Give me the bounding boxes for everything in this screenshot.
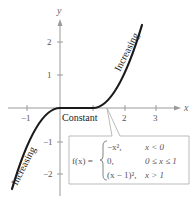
x-axis-label: x <box>183 102 189 113</box>
tick-label-y-neg1: −1 <box>43 137 53 147</box>
case2-cond: 0 ≤ x ≤ 1 <box>145 156 177 166</box>
case3-expr: (x − 1)², <box>107 170 137 180</box>
piecewise-function-graph: x y −1 2 3 2 1 −1 −2 Increasing Increasi… <box>0 0 193 201</box>
tick-label-y-neg2: −2 <box>43 169 53 179</box>
x-axis-arrow-icon <box>174 106 181 111</box>
case3-cond: x > 1 <box>144 170 164 180</box>
formula-lhs: f(x) = <box>72 156 93 166</box>
tick-label-y-1: 1 <box>47 70 52 80</box>
y-axis-label: y <box>56 5 62 16</box>
y-axis-arrow-icon <box>58 19 63 26</box>
constant-label: Constant <box>62 112 98 123</box>
tick-label-y-2: 2 <box>47 37 52 47</box>
increasing-label-left: Increasing <box>9 145 38 187</box>
tick-label-x-neg1: −1 <box>21 113 31 123</box>
tick-label-x-2: 2 <box>122 113 127 123</box>
case1-cond: x < 0 <box>144 142 165 152</box>
case2-expr: 0, <box>107 156 114 166</box>
tick-label-x-3: 3 <box>153 113 158 123</box>
case1-expr: −x², <box>107 142 122 152</box>
